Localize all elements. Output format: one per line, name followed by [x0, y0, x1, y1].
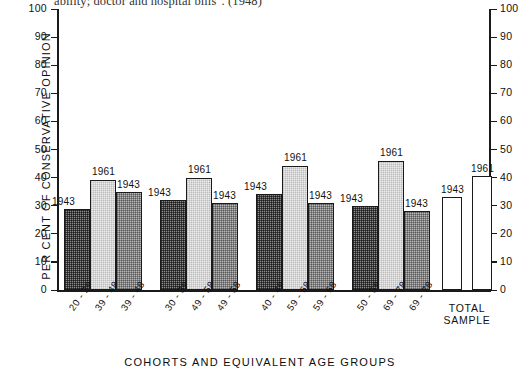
bar-1961-69-78[interactable]: [378, 161, 404, 290]
y-tick-left-80: [51, 65, 57, 66]
bar-year-label-total-1961: 1961: [471, 163, 494, 174]
y-tick-right-90: [491, 37, 497, 38]
bar-1943-40-49[interactable]: [256, 194, 282, 290]
bar-year-label: 1943: [309, 190, 332, 201]
y-tick-left-100: [51, 9, 57, 10]
y-tick-left-40: [51, 177, 57, 178]
bar-year-label: 1943: [405, 198, 428, 209]
y-tick-label-left-90: 90: [21, 30, 47, 42]
total-sample-label-2: SAMPLE: [434, 314, 500, 326]
y-tick-left-50: [51, 149, 57, 150]
y-tick-label-right-50: 50: [500, 143, 526, 155]
y-tick-right-80: [491, 65, 497, 66]
bar-total-sample-1961[interactable]: [472, 176, 492, 290]
bar-1943-39-48[interactable]: [116, 192, 142, 290]
bar-year-label: 1943: [213, 190, 236, 201]
y-tick-label-right-0: 0: [500, 283, 526, 295]
y-tick-label-left-30: 30: [21, 199, 47, 211]
y-tick-left-70: [51, 93, 57, 94]
bar-1961-39-48[interactable]: [90, 180, 116, 290]
bar-year-label: 1961: [380, 147, 403, 158]
bar-1943-20-29[interactable]: [64, 209, 90, 290]
plot-area: 1001009090808070706060505040403030202010…: [0, 0, 532, 375]
y-tick-right-100: [491, 9, 497, 10]
y-tick-label-right-80: 80: [500, 58, 526, 70]
y-tick-label-left-10: 10: [21, 255, 47, 267]
y-tick-label-left-70: 70: [21, 86, 47, 98]
y-tick-right-50: [491, 149, 497, 150]
y-axis-left: [57, 9, 59, 291]
y-tick-left-20: [51, 233, 57, 234]
total-sample-label: TOTAL: [434, 302, 500, 314]
y-tick-left-90: [51, 37, 57, 38]
y-tick-right-70: [491, 93, 497, 94]
y-tick-label-right-30: 30: [500, 199, 526, 211]
y-tick-label-left-40: 40: [21, 171, 47, 183]
bar-year-label: 1943: [244, 181, 267, 192]
chart-figure: ability; doctor and hospital bills". (19…: [0, 0, 532, 375]
y-tick-label-right-90: 90: [500, 30, 526, 42]
y-tick-label-left-20: 20: [21, 227, 47, 239]
bar-year-label: 1943: [117, 179, 140, 190]
y-tick-label-right-10: 10: [500, 255, 526, 267]
y-tick-label-left-50: 50: [21, 143, 47, 155]
y-tick-label-left-80: 80: [21, 58, 47, 70]
y-tick-label-left-0: 0: [21, 283, 47, 295]
bar-year-label: 1961: [188, 164, 211, 175]
bar-year-label: 1961: [284, 152, 307, 163]
y-tick-left-60: [51, 121, 57, 122]
bar-1961-49-58[interactable]: [186, 178, 212, 290]
y-tick-label-right-60: 60: [500, 114, 526, 126]
y-tick-right-60: [491, 121, 497, 122]
y-tick-label-right-70: 70: [500, 86, 526, 98]
bar-1943-49-58[interactable]: [212, 203, 238, 290]
bar-year-label: 1943: [340, 193, 363, 204]
bar-year-label-total-1943: 1943: [441, 184, 464, 195]
y-tick-left-0: [51, 290, 57, 291]
bar-year-label: 1961: [92, 166, 115, 177]
y-tick-label-right-100: 100: [500, 2, 526, 14]
y-tick-label-left-100: 100: [21, 2, 47, 14]
bar-1943-30-39[interactable]: [160, 200, 186, 290]
y-tick-label-left-60: 60: [21, 114, 47, 126]
bar-total-sample-1943[interactable]: [442, 197, 462, 290]
bar-1943-50-59[interactable]: [352, 206, 378, 290]
y-tick-label-right-20: 20: [500, 227, 526, 239]
y-tick-left-10: [51, 261, 57, 262]
bar-year-label: 1943: [52, 196, 75, 207]
bar-1961-59-68[interactable]: [282, 166, 308, 290]
y-tick-label-right-40: 40: [500, 171, 526, 183]
bar-1943-59-68[interactable]: [308, 203, 334, 290]
bar-year-label: 1943: [148, 187, 171, 198]
